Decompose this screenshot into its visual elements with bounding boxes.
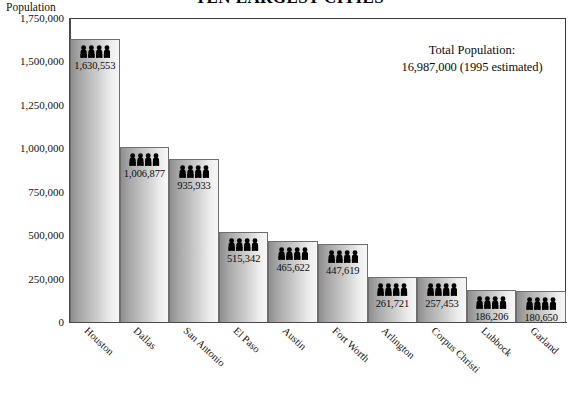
people-group-icon xyxy=(129,153,160,166)
people-group-icon xyxy=(278,247,309,260)
x-label-austin: Austin xyxy=(281,325,309,352)
people-group-icon xyxy=(80,45,111,58)
people-group-icon xyxy=(328,250,359,263)
x-label-corpus-christi: Corpus Christi xyxy=(430,325,483,375)
people-group-icon xyxy=(179,165,210,178)
x-label-garland: Garland xyxy=(529,325,561,356)
x-label-san-antonio: San Antonio xyxy=(182,325,228,369)
people-group-icon xyxy=(228,238,259,251)
bar-fort-worth[interactable]: 447,619 xyxy=(318,244,368,322)
x-label-arlington: Arlington xyxy=(380,325,417,361)
people-group-icon xyxy=(427,283,458,296)
page-title: TEN LARGEST CITIES xyxy=(0,0,579,8)
bar-dallas[interactable]: 1,006,877 xyxy=(120,147,170,322)
y-axis-tick-250000: 250,000 xyxy=(0,273,64,285)
y-axis-tick-750000: 750,000 xyxy=(0,186,64,198)
bar-value-label: 935,933 xyxy=(177,180,210,191)
total-population-annotation: Total Population: 16,987,000 (1995 estim… xyxy=(380,42,564,76)
bar-houston[interactable]: 1,630,553 xyxy=(70,39,120,322)
x-label-el-paso: El Paso xyxy=(231,325,262,355)
bar-value-label: 465,622 xyxy=(276,262,309,273)
people-group-icon xyxy=(526,297,557,310)
x-label-houston: Houston xyxy=(82,325,116,357)
bar-value-label: 261,721 xyxy=(376,298,409,309)
y-axis-tick-labels: 0250,000500,000750,0001,000,0001,250,000… xyxy=(0,0,66,393)
people-group-icon xyxy=(377,283,408,296)
bar-value-label: 1,006,877 xyxy=(124,168,165,179)
x-label-dallas: Dallas xyxy=(132,325,159,351)
bar-value-label: 515,342 xyxy=(227,253,260,264)
y-axis-tick-0: 0 xyxy=(0,316,64,328)
bar-garland[interactable]: 180,650 xyxy=(516,291,566,322)
bar-san-antonio[interactable]: 935,933 xyxy=(169,159,219,322)
bar-arlington[interactable]: 261,721 xyxy=(368,277,418,322)
total-population-label: Total Population: xyxy=(380,42,564,59)
bar-value-label: 186,206 xyxy=(475,311,508,322)
bar-lubbock[interactable]: 186,206 xyxy=(467,290,517,322)
bar-value-label: 180,650 xyxy=(524,312,557,323)
bar-value-label: 447,619 xyxy=(326,265,359,276)
x-axis-category-labels: HoustonDallasSan AntonioEl PasoAustinFor… xyxy=(70,325,566,393)
y-axis-tick-1000000: 1,000,000 xyxy=(0,142,64,154)
x-label-lubbock: Lubbock xyxy=(479,325,514,359)
y-axis-tick-500000: 500,000 xyxy=(0,229,64,241)
bar-austin[interactable]: 465,622 xyxy=(268,241,318,322)
y-axis-tick-1250000: 1,250,000 xyxy=(0,99,64,111)
bar-corpus-christi[interactable]: 257,453 xyxy=(417,277,467,322)
bar-value-label: 1,630,553 xyxy=(74,60,115,71)
y-axis-tick-1500000: 1,500,000 xyxy=(0,55,64,67)
bar-value-label: 257,453 xyxy=(425,298,458,309)
bar-el-paso[interactable]: 515,342 xyxy=(219,232,269,322)
total-population-value: 16,987,000 (1995 estimated) xyxy=(380,59,564,76)
x-label-fort-worth: Fort Worth xyxy=(330,325,371,364)
people-group-icon xyxy=(476,296,507,309)
y-axis-tick-1750000: 1,750,000 xyxy=(0,12,64,24)
